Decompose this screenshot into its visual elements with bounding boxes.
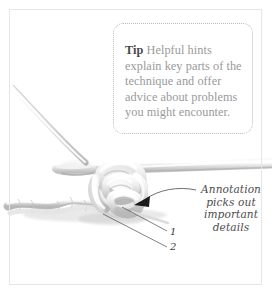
- tip-text: Tip Helpful hints explain key parts of t…: [125, 43, 243, 120]
- annotation-line-4: details: [196, 221, 266, 234]
- illustration-page: Tip Helpful hints explain key parts of t…: [0, 0, 273, 296]
- tip-callout-box: Tip Helpful hints explain key parts of t…: [113, 23, 253, 134]
- hook-head: [52, 160, 96, 176]
- annotation-line-1: Annotation: [196, 183, 266, 196]
- leader-label-1: 1: [170, 226, 176, 237]
- leader-label-2: 2: [170, 241, 176, 252]
- annotation-callout: Annotation picks out important details: [196, 183, 266, 233]
- yarn-working-strand: [11, 86, 88, 164]
- annotation-line-3: important: [196, 208, 266, 221]
- annotation-line-2: picks out: [196, 196, 266, 209]
- tip-label: Tip: [125, 43, 143, 57]
- tip-body: Helpful hints explain key parts of the t…: [125, 43, 242, 119]
- yarn-loop-cluster: [88, 162, 148, 218]
